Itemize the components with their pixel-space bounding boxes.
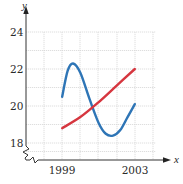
x-axis-label: x [173, 153, 179, 165]
red-line [62, 69, 135, 128]
y-axis [23, 6, 29, 160]
x-tick-2003: 2003 [122, 164, 149, 176]
y-tick-18: 18 [10, 137, 23, 149]
x-tick-1999: 1999 [49, 164, 76, 176]
axis-break-icon [23, 146, 29, 160]
y-tick-24: 24 [10, 26, 24, 38]
series-layer [62, 63, 135, 135]
y-axis-label: y [21, 0, 27, 11]
blue-curve [62, 63, 135, 135]
x-axis-arrow-icon [163, 157, 171, 162]
x-axis [26, 157, 171, 163]
y-tick-22: 22 [10, 63, 23, 75]
grid [26, 32, 156, 160]
y-tick-20: 20 [10, 100, 23, 112]
line-chart: 24 22 20 18 1999 2003 y x [0, 0, 183, 184]
